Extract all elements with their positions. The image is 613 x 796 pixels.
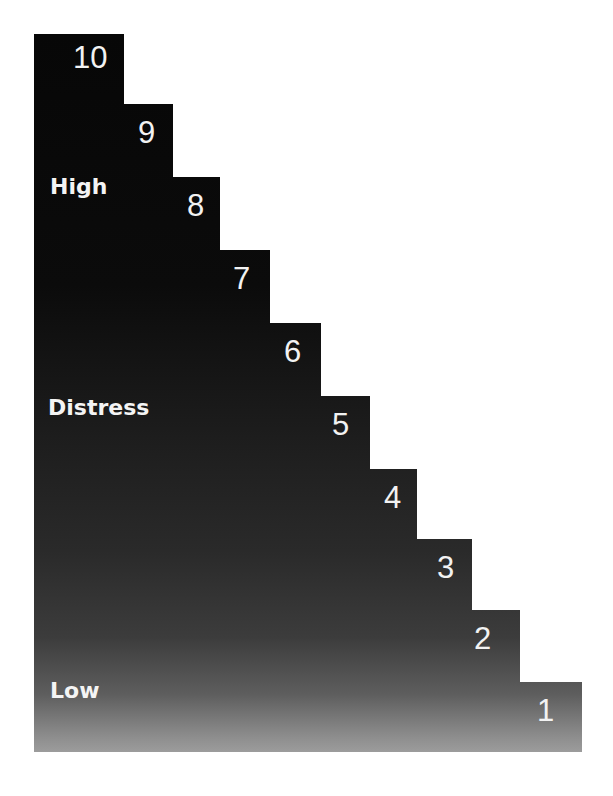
level-9: 9	[138, 117, 155, 148]
level-10: 10	[73, 42, 107, 73]
level-5: 5	[332, 409, 349, 440]
level-4: 4	[384, 482, 401, 513]
level-7: 7	[233, 263, 250, 294]
level-8: 8	[187, 190, 204, 221]
level-6: 6	[284, 336, 301, 367]
label-low: Low	[50, 680, 99, 702]
distress-scale-staircase: 10 9 8 7 6 5 4 3 2 1 High Distress Low	[0, 0, 613, 796]
level-2: 2	[474, 623, 491, 654]
level-1: 1	[537, 695, 554, 726]
label-distress: Distress	[48, 397, 149, 419]
label-high: High	[50, 176, 107, 198]
level-3: 3	[437, 552, 454, 583]
staircase-gradient-shape	[34, 34, 582, 752]
